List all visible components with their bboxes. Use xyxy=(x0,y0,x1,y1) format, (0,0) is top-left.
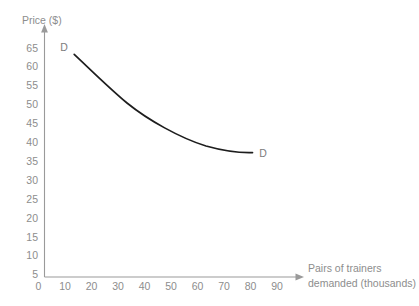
y-tick-label: 35 xyxy=(26,155,38,167)
y-tick-label: 45 xyxy=(26,117,38,129)
x-tick-label: 20 xyxy=(86,280,98,292)
x-tick-label: 60 xyxy=(192,280,204,292)
x-axis-title-line2: demanded (thousands) xyxy=(308,277,416,289)
y-tick-label: 55 xyxy=(26,79,38,91)
x-axis-title-line1: Pairs of trainers xyxy=(308,262,382,274)
y-tick-label: 25 xyxy=(26,193,38,205)
x-tick-label: 0 xyxy=(36,280,42,292)
x-tick-label: 50 xyxy=(165,280,177,292)
chart-canvas: 65 60 55 50 45 40 35 30 25 20 15 10 5 0 … xyxy=(0,0,419,306)
demand-curve-chart: 65 60 55 50 45 40 35 30 25 20 15 10 5 0 … xyxy=(0,0,419,306)
y-tick-label: 60 xyxy=(26,60,38,72)
x-tick-label: 10 xyxy=(59,280,71,292)
x-tick-label: 40 xyxy=(139,280,151,292)
x-tick-label: 90 xyxy=(271,280,283,292)
demand-curve-label-start: D xyxy=(60,41,68,53)
y-tick-label: 20 xyxy=(26,212,38,224)
x-tick-label: 30 xyxy=(112,280,124,292)
y-tick-label: 5 xyxy=(32,268,38,280)
y-tick-label: 65 xyxy=(26,42,38,54)
x-axis-arrowhead xyxy=(296,274,305,281)
y-tick-label: 50 xyxy=(26,98,38,110)
x-tick-label: 80 xyxy=(245,280,257,292)
y-axis-title: Price ($) xyxy=(22,14,62,26)
y-tick-label: 40 xyxy=(26,136,38,148)
demand-curve-label-end: D xyxy=(259,147,267,159)
demand-curve-line xyxy=(74,54,252,152)
y-tick-label: 15 xyxy=(26,231,38,243)
y-tick-label: 10 xyxy=(26,249,38,261)
y-tick-label: 30 xyxy=(26,174,38,186)
x-tick-label: 70 xyxy=(218,280,230,292)
